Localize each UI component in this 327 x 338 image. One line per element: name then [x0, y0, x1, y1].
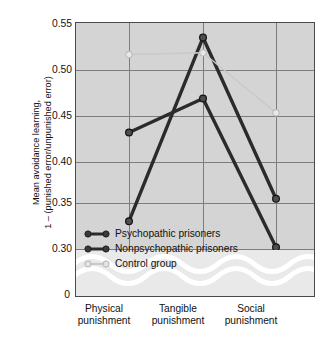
x-tick-label-social: Social punishment: [206, 303, 296, 327]
legend-label-psychopathic: Psychopathic prisoners: [115, 228, 220, 239]
legend-item-psychopathic: Psychopathic prisoners: [84, 226, 274, 241]
data-point-0-1: [200, 34, 207, 41]
legend-label-control: Control group: [115, 258, 177, 269]
series-line-2: [129, 53, 276, 113]
data-point-2-1: [200, 50, 206, 56]
y-tick-055: 0.55: [38, 19, 72, 29]
data-point-2-0: [126, 51, 132, 57]
legend-key-icon-psychopathic: [84, 228, 110, 240]
y-tick-zero: 0: [36, 289, 70, 300]
legend: Psychopathic prisoners Nonpsychopathic p…: [84, 226, 274, 271]
y-tick-040: 0.40: [38, 157, 72, 167]
data-point-1-1: [200, 95, 207, 102]
legend-label-nonpsychopathic: Nonpsychopathic prisoners: [115, 243, 238, 254]
data-point-0-0: [126, 218, 133, 225]
series-line-0: [129, 38, 276, 222]
y-axis-title: Mean avoidance learning, 1 – (punished e…: [0, 0, 36, 300]
legend-key-icon-nonpsychopathic: [84, 243, 110, 255]
data-point-1-0: [126, 129, 133, 136]
data-point-2-2: [273, 110, 279, 116]
y-tick-030: 0.30: [38, 244, 72, 254]
x-tick-social-line1: Social: [206, 303, 296, 315]
y-tick-045: 0.45: [38, 111, 72, 121]
legend-item-nonpsychopathic: Nonpsychopathic prisoners: [84, 241, 274, 256]
chart-figure: Mean avoidance learning, 1 – (punished e…: [0, 0, 327, 338]
data-point-0-2: [273, 195, 280, 202]
y-tick-035: 0.35: [38, 198, 72, 208]
legend-item-control: Control group: [84, 256, 274, 271]
x-tick-social-line2: punishment: [206, 315, 296, 327]
y-tick-050: 0.50: [38, 65, 72, 75]
plot-area: Psychopathic prisoners Nonpsychopathic p…: [75, 22, 315, 297]
y-axis-tick-labels: 0.55 0.50 0.45 0.40 0.35 0.30: [36, 0, 72, 310]
legend-key-icon-control: [84, 258, 110, 270]
series-line-1: [129, 98, 276, 247]
